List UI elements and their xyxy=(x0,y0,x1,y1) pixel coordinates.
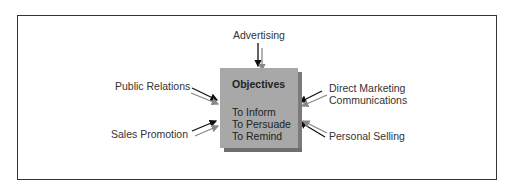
objective-item: To Inform xyxy=(232,106,276,118)
label-public-relations: Public Relations xyxy=(115,80,190,92)
label-communications: Communications xyxy=(329,94,407,106)
sales-promotion-arrow xyxy=(192,121,218,136)
objectives-title: Objectives xyxy=(232,78,285,90)
personal-selling-arrow xyxy=(300,121,327,137)
objective-item: To Persuade xyxy=(232,118,291,130)
public-relations-arrow xyxy=(191,88,218,104)
label-advertising: Advertising xyxy=(233,29,285,41)
advertising-arrow xyxy=(258,43,262,70)
box-shadow xyxy=(298,72,302,152)
direct-marketing-arrow xyxy=(300,91,327,106)
objective-item: To Remind xyxy=(232,130,282,142)
label-direct-marketing: Direct Marketing xyxy=(329,82,405,94)
box-shadow xyxy=(224,148,302,152)
label-sales-promotion: Sales Promotion xyxy=(111,128,188,140)
label-personal-selling: Personal Selling xyxy=(329,130,405,142)
